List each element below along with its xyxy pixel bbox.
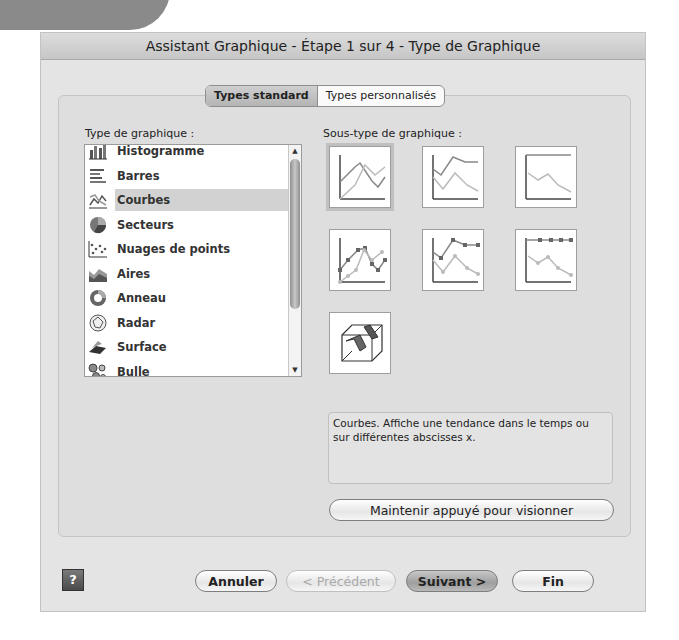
list-item-aires[interactable]: Aires bbox=[85, 262, 301, 287]
surface-chart-icon bbox=[87, 337, 109, 357]
chart-type-label: Type de graphique : bbox=[85, 127, 194, 140]
subtype-100-stacked-line[interactable] bbox=[515, 146, 577, 208]
line-chart-icon bbox=[87, 190, 109, 210]
tab-standard-types[interactable]: Types standard bbox=[206, 86, 318, 106]
scroll-down-arrow-icon[interactable]: ▼ bbox=[289, 364, 301, 376]
subtype-100-stacked-line-markers[interactable] bbox=[515, 229, 577, 291]
bubble-chart-icon bbox=[87, 362, 109, 377]
subtype-line[interactable] bbox=[329, 146, 391, 208]
list-item-secteurs[interactable]: Secteurs bbox=[85, 213, 301, 238]
scatter-chart-icon bbox=[87, 239, 109, 259]
stacked-line-markers-subtype-icon bbox=[423, 230, 483, 290]
list-item-histogramme[interactable]: Histogramme bbox=[85, 144, 301, 164]
percent-stacked-line-markers-subtype-icon bbox=[516, 230, 576, 290]
next-button[interactable]: Suivant > bbox=[406, 570, 498, 592]
tab-bar: Types standard Types personnalisés bbox=[205, 85, 445, 107]
list-item-barres[interactable]: Barres bbox=[85, 164, 301, 189]
list-item-bulle[interactable]: Bulle bbox=[85, 360, 301, 378]
subtype-description: Courbes. Affiche une tendance dans le te… bbox=[328, 412, 613, 484]
list-scrollbar[interactable]: ▲ ▼ bbox=[288, 145, 301, 376]
column-chart-icon bbox=[87, 144, 109, 161]
list-item-radar[interactable]: Radar bbox=[85, 311, 301, 336]
bar-chart-icon bbox=[87, 166, 109, 186]
previous-button[interactable]: < Précédent bbox=[286, 570, 396, 592]
list-item-nuages-de-points[interactable]: Nuages de points bbox=[85, 237, 301, 262]
hold-to-preview-button[interactable]: Maintenir appuyé pour visionner bbox=[329, 499, 614, 521]
list-item-anneau[interactable]: Anneau bbox=[85, 286, 301, 311]
help-button[interactable]: ? bbox=[62, 569, 84, 591]
list-item-courbes[interactable]: Courbes bbox=[85, 188, 301, 213]
dialog-title: Assistant Graphique - Étape 1 sur 4 - Ty… bbox=[41, 33, 645, 60]
stacked-line-subtype-icon bbox=[423, 147, 483, 207]
cancel-button[interactable]: Annuler bbox=[195, 570, 277, 592]
subtype-stacked-line-markers[interactable] bbox=[422, 229, 484, 291]
scroll-thumb[interactable] bbox=[290, 159, 300, 309]
doughnut-chart-icon bbox=[87, 288, 109, 308]
line-markers-subtype-icon bbox=[330, 230, 390, 290]
background-corner-shape bbox=[0, 0, 170, 30]
subtype-line-markers[interactable] bbox=[329, 229, 391, 291]
list-item-surface[interactable]: Surface bbox=[85, 335, 301, 360]
finish-button[interactable]: Fin bbox=[512, 570, 594, 592]
line-subtype-icon bbox=[330, 147, 390, 207]
percent-stacked-line-subtype-icon bbox=[516, 147, 576, 207]
chart-type-list[interactable]: Histogramme Barres Courbes Secteurs bbox=[84, 144, 302, 377]
radar-chart-icon bbox=[87, 313, 109, 333]
chart-wizard-dialog: Assistant Graphique - Étape 1 sur 4 - Ty… bbox=[40, 32, 646, 612]
3d-line-subtype-icon bbox=[330, 313, 390, 373]
scroll-up-arrow-icon[interactable]: ▲ bbox=[289, 145, 301, 157]
subtype-stacked-line[interactable] bbox=[422, 146, 484, 208]
tab-custom-types[interactable]: Types personnalisés bbox=[318, 86, 444, 106]
pie-chart-icon bbox=[87, 215, 109, 235]
area-chart-icon bbox=[87, 264, 109, 284]
subtype-3d-line[interactable] bbox=[329, 312, 391, 374]
subtype-label: Sous-type de graphique : bbox=[323, 127, 462, 140]
